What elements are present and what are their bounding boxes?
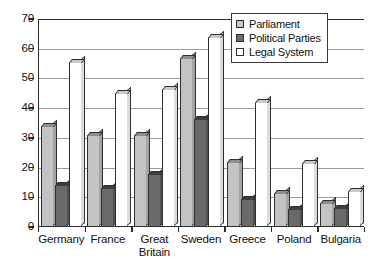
legend-item[interactable]: Parliament: [236, 17, 321, 31]
x-tick-mark: [271, 227, 272, 232]
x-axis-label: Poland: [271, 233, 318, 246]
x-axis-label-line: Greece: [224, 233, 271, 246]
bar-group: [85, 19, 132, 227]
legend-swatch-political-parties: [236, 34, 244, 42]
y-axis: 010203040506070: [0, 19, 34, 227]
y-tick-label: 10: [9, 191, 34, 202]
bar: [69, 62, 82, 227]
x-axis-label-line: France: [85, 233, 132, 246]
bar: [115, 93, 128, 227]
x-tick-mark: [131, 227, 132, 232]
bar: [227, 162, 240, 227]
x-tick-mark: [85, 227, 86, 232]
x-axis-label: France: [85, 233, 132, 246]
x-tick-mark: [364, 227, 365, 232]
x-axis-label-line: Great: [131, 233, 178, 246]
bar-top-cap: [274, 190, 290, 194]
bar: [208, 37, 221, 227]
bar-chart: 010203040506070 GermanyFranceGreatBritai…: [0, 0, 373, 268]
x-tick-mark: [317, 227, 318, 232]
bar: [87, 135, 100, 227]
bar: [348, 191, 361, 227]
bar-group: [131, 19, 178, 227]
y-tick-label: 60: [9, 43, 34, 54]
bar-top-cap: [134, 132, 150, 136]
x-axis-label: Greece: [224, 233, 271, 246]
bar: [148, 174, 161, 227]
bar: [55, 185, 68, 227]
bar-top-cap: [162, 86, 178, 90]
y-tick-label: 20: [9, 162, 34, 173]
x-axis-label: Bulgaria: [317, 233, 364, 246]
y-tick-label: 0: [9, 221, 34, 232]
legend-swatch-parliament: [236, 20, 244, 28]
y-tick-label: 50: [9, 72, 34, 83]
x-axis-label: Germany: [38, 233, 85, 246]
x-axis-label-line: Germany: [38, 233, 85, 246]
bar: [134, 135, 147, 227]
x-axis-label-line: Sweden: [178, 233, 225, 246]
bar-group: [178, 19, 225, 227]
bar-top-cap: [41, 123, 57, 127]
bar: [162, 89, 175, 227]
bar: [41, 126, 54, 227]
bar: [101, 188, 114, 227]
bar: [302, 163, 315, 227]
y-tick-label: 40: [9, 102, 34, 113]
bar: [320, 203, 333, 227]
y-tick-label: 30: [9, 132, 34, 143]
legend-item[interactable]: Political Parties: [236, 31, 321, 45]
x-axis-label-line: Britain: [131, 246, 178, 259]
bar: [180, 58, 193, 227]
bar-top-cap: [227, 159, 243, 163]
legend-item[interactable]: Legal System: [236, 45, 321, 59]
legend-label: Political Parties: [249, 33, 321, 44]
bar-top-cap: [69, 59, 85, 63]
x-axis-label: Sweden: [178, 233, 225, 246]
x-axis-label-line: Poland: [271, 233, 318, 246]
x-axis-label-line: Bulgaria: [317, 233, 364, 246]
bar: [241, 199, 254, 227]
legend-label: Parliament: [249, 19, 300, 30]
y-tick-label: 70: [9, 13, 34, 24]
x-axis-labels: GermanyFranceGreatBritainSwedenGreecePol…: [38, 233, 364, 267]
bar: [334, 208, 347, 227]
bar: [194, 119, 207, 227]
x-tick-mark: [224, 227, 225, 232]
legend: ParliamentPolitical PartiesLegal System: [231, 13, 328, 63]
bar: [288, 209, 301, 227]
x-axis-label: GreatBritain: [131, 233, 178, 258]
bar-top-cap: [302, 160, 318, 164]
legend-label: Legal System: [249, 47, 313, 58]
x-tick-mark: [38, 227, 39, 232]
x-tick-mark: [178, 227, 179, 232]
bar: [255, 102, 268, 227]
bar: [274, 193, 287, 227]
bar-group: [38, 19, 85, 227]
legend-swatch-legal-system: [236, 48, 244, 56]
